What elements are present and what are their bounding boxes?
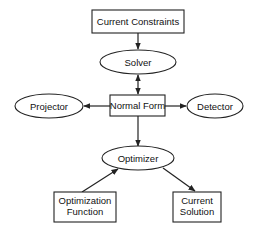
node-label: Optimizer xyxy=(118,153,159,164)
node-label-line2: Solution xyxy=(180,206,214,217)
diagram-canvas: Current Constraints Solver Normal Form P… xyxy=(0,0,253,235)
node-optimizer: Optimizer xyxy=(102,146,174,170)
node-label-line1: Current xyxy=(181,195,213,206)
node-detector: Detector xyxy=(187,94,243,118)
node-current-solution: Current Solution xyxy=(173,192,221,222)
edge-optfunc-to-optimizer xyxy=(82,169,118,192)
node-current-constraints: Current Constraints xyxy=(92,10,184,33)
node-label-line1: Optimization xyxy=(59,195,112,206)
node-label: Normal Form xyxy=(110,100,166,111)
node-label: Projector xyxy=(30,101,68,112)
node-solver: Solver xyxy=(100,50,176,74)
node-optimization-function: Optimization Function xyxy=(54,192,116,222)
node-projector: Projector xyxy=(15,94,83,118)
edge-optimizer-to-solution xyxy=(163,168,195,191)
node-label: Current Constraints xyxy=(97,16,180,27)
node-label-line2: Function xyxy=(67,206,103,217)
node-label: Detector xyxy=(197,101,233,112)
node-label: Solver xyxy=(125,57,152,68)
node-normal-form: Normal Form xyxy=(110,95,166,116)
